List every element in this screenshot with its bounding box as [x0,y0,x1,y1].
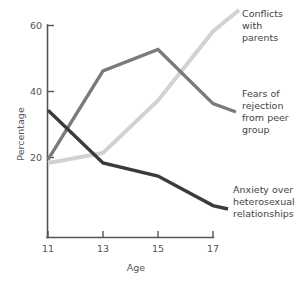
y-tick-label-20: 20 [30,152,42,163]
y-axis-title: Percentage [15,107,26,161]
x-tick-label-13: 13 [97,243,109,254]
series-line-fears-of-rejection [48,50,236,160]
legend-fears-of-rejection: Fears of rejection from peer group [242,88,289,135]
line-chart: 60 40 20 11 13 15 17 Age Percentage Conf… [0,0,307,282]
x-tick-label-15: 15 [152,243,164,254]
legend-anxiety-over-heterosexual-relationships: Anxiety over heterosexual relationships [233,184,295,219]
legend-label-fears-line2: rejection [242,100,283,111]
legend-conflicts-with-parents: Conflicts with parents [242,8,283,43]
x-tick-label-11: 11 [42,243,54,254]
legend-label-conflicts-line3: parents [242,32,278,43]
y-tick-labels: 60 40 20 [30,20,42,163]
chart-container: 60 40 20 11 13 15 17 Age Percentage Conf… [0,0,307,282]
legend-label-fears-line1: Fears of [242,88,280,99]
legend-label-fears-line3: from peer [242,112,289,123]
legend-label-fears-line4: group [242,124,270,135]
x-tick-labels: 11 13 15 17 [42,243,219,254]
legend-label-conflicts-line2: with [242,20,262,31]
legend-label-anxiety-line1: Anxiety over [233,184,293,195]
legend-label-conflicts-line1: Conflicts [242,8,283,19]
y-tick-label-60: 60 [30,20,42,31]
x-tick-label-17: 17 [207,243,219,254]
legend-label-anxiety-line2: heterosexual [233,196,295,207]
x-axis-title: Age [127,262,146,273]
y-tick-label-40: 40 [30,86,42,97]
legend-label-anxiety-line3: relationships [233,208,294,219]
